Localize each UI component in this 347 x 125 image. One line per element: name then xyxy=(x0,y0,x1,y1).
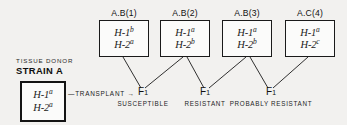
genotype-box-1: H-1b H-2a xyxy=(99,20,149,57)
transplant-genetics-diagram: A.B(1) A.B(2) A.B(3) A.C(4) H-1b H-2a H-… xyxy=(0,0,347,125)
connector-box2-to-f1-2 xyxy=(187,57,204,88)
genotype-box-3: H-1a H-2b xyxy=(222,20,272,57)
genotype-box-4: H-1a H-2c xyxy=(285,20,335,57)
outcome-2-verdict: RESISTANT xyxy=(177,100,233,107)
donor-genotype-box: H-1a H-2a xyxy=(20,81,66,122)
genotype-box-1-locus-2: H-2a xyxy=(114,39,133,51)
donor-locus-2: H-2a xyxy=(33,102,52,115)
connector-box1-to-f1-1 xyxy=(123,57,141,88)
donor-caption: TISSUE DONOR STRAIN A xyxy=(16,57,73,76)
outcome-1-generation: F1 xyxy=(113,87,173,97)
outcome-1: F1 SUSCEPTIBLE xyxy=(113,87,173,107)
outcome-3-verdict: PROBABLY RESISTANT xyxy=(228,100,314,107)
outcome-2: F1 RESISTANT xyxy=(177,87,233,107)
outcome-2-generation: F1 xyxy=(177,87,233,97)
outcome-3-generation: F1 xyxy=(228,87,314,97)
genotype-box-4-locus-2: H-2c xyxy=(301,39,320,51)
genotype-box-2-locus-2: H-2b xyxy=(175,39,194,51)
connector-box2-to-f1-1 xyxy=(145,57,183,88)
strain-label-4: A.C(4) xyxy=(285,8,335,18)
donor-caption-line2: STRAIN A xyxy=(16,65,73,76)
connector-box3-to-f1-2 xyxy=(209,57,246,88)
genotype-box-3-locus-2: H-2b xyxy=(237,39,256,51)
outcome-1-verdict: SUSCEPTIBLE xyxy=(113,100,173,107)
strain-label-1: A.B(1) xyxy=(99,8,149,18)
genotype-box-2: H-1a H-2b xyxy=(160,20,210,57)
outcome-3: F1 PROBABLY RESISTANT xyxy=(228,87,314,107)
connector-box3-to-f1-3 xyxy=(250,57,268,88)
connector-box4-to-f1-3 xyxy=(273,57,308,88)
donor-caption-line1: TISSUE DONOR xyxy=(16,57,73,64)
strain-label-3: A.B(3) xyxy=(222,8,272,18)
strain-label-2: A.B(2) xyxy=(160,8,210,18)
